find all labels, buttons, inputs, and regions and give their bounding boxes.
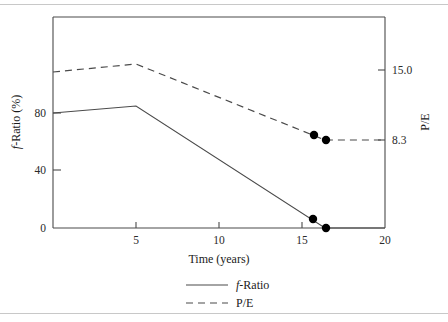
x-tick-marks [136, 222, 302, 228]
data-point-pe-1 [310, 131, 318, 139]
y-left-tick-label-40: 40 [35, 164, 47, 176]
y-left-tick-label-80: 80 [35, 107, 47, 119]
x-tick-label-20: 20 [379, 234, 391, 246]
y-right-tick-marks [378, 70, 385, 140]
y-right-tick-label-8-3: 8.3 [392, 134, 407, 146]
legend-item-fratio: f-Ratio [186, 278, 269, 292]
series-line-fratio [53, 106, 385, 228]
series-markers-fratio [309, 215, 330, 232]
x-axis-title: Time (years) [188, 252, 249, 266]
y-right-tick-label-15-0: 15.0 [392, 64, 412, 76]
svg-text:f-Ratio: f-Ratio [236, 278, 269, 292]
plot-frame [53, 17, 385, 228]
svg-text:f-Ratio (%): f-Ratio (%) [9, 95, 23, 149]
y-left-tick-label-0: 0 [40, 222, 46, 234]
x-tick-label-5: 5 [133, 234, 139, 246]
data-point-fratio-1 [309, 215, 317, 223]
chart-svg: 5 10 15 20 0 40 80 15.0 8.3 Time (years)… [0, 0, 448, 322]
y-left-tick-marks [53, 113, 61, 170]
y-right-axis-title: P/E [418, 113, 432, 130]
data-point-pe-2 [322, 136, 330, 144]
figure-container: 5 10 15 20 0 40 80 15.0 8.3 Time (years)… [0, 0, 448, 322]
data-point-fratio-2 [322, 224, 330, 232]
y-left-axis-title-rest: -Ratio (%) [9, 95, 23, 146]
top-divider-rule [0, 4, 448, 5]
y-right-axis-title-text: P/E [418, 113, 432, 130]
chart-legend: f-Ratio P/E [186, 278, 269, 310]
y-left-axis-title: f-Ratio (%) [9, 95, 23, 149]
x-tick-label-10: 10 [213, 234, 225, 246]
legend-label-fratio-rest: -Ratio [239, 278, 269, 292]
x-tick-label-15: 15 [296, 234, 308, 246]
series-line-pe [53, 64, 385, 140]
legend-label-pe: P/E [236, 296, 253, 310]
bottom-divider-rule [0, 313, 448, 314]
legend-item-pe: P/E [186, 296, 253, 310]
